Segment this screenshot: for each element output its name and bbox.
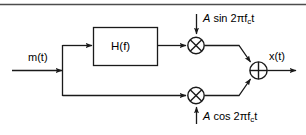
carrier-bottom-expr: cos 2πf (210, 110, 250, 122)
bottom-to-summer-line (205, 79, 251, 96)
carrier-bottom-tail: t (254, 110, 257, 122)
carrier-top-tail: t (251, 12, 254, 24)
input-label: m(t) (28, 52, 48, 63)
filter-block-label: H(f) (111, 41, 130, 53)
carrier-top-label: A sin 2πfct (203, 13, 254, 26)
carrier-top-expr: sin 2πf (210, 12, 247, 24)
carrier-bottom-label: A cos 2πfct (203, 111, 257, 124)
figure-canvas: m(t) H(f) x(t) A sin 2πfct A cos 2πfct (0, 0, 306, 135)
output-label: x(t) (269, 51, 285, 62)
block-diagram-svg (0, 0, 306, 135)
top-to-summer-line (205, 46, 251, 63)
